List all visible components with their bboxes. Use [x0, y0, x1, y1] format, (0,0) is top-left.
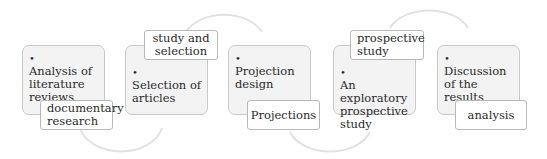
step-2-label-text: study and selection: [151, 32, 211, 58]
step-3-label-text: Projections: [251, 109, 317, 122]
step-1-text: Analysis of literature reviews: [29, 65, 99, 104]
step-4-label-text: prospective study: [357, 32, 425, 58]
arc-4-5: [390, 10, 468, 28]
step-2-label: study and selection: [144, 30, 218, 60]
step-3-text: Projection design: [235, 65, 305, 91]
step-2-text: Selection of articles: [132, 79, 202, 105]
step-5-label-text: analysis: [468, 109, 515, 122]
arc-1-2: [80, 128, 162, 151]
step-1-label-text: documentary research: [47, 102, 124, 128]
step-5-label: analysis: [455, 100, 527, 130]
step-4-label: prospective study: [350, 30, 424, 60]
step-4-text: An exploratory prospective study: [340, 79, 410, 131]
step-5-text: Discussion of the results: [444, 65, 514, 104]
step-3-label: Projections: [247, 100, 320, 130]
arc-3-4: [290, 132, 370, 151]
step-1-label: documentary research: [40, 100, 113, 130]
